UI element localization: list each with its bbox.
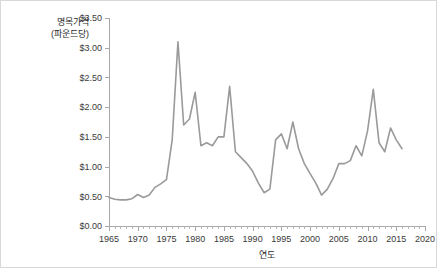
x-tick-label: 1985 [214,234,234,244]
y-tick-label: $1.00 [79,162,102,172]
x-tick-label: 1970 [128,234,148,244]
series-line [109,42,402,200]
x-tick-label: 2010 [358,234,378,244]
x-tick-label: 2020 [415,234,435,244]
y-tick-label: $2.00 [79,102,102,112]
y-axis: $0.00$0.50$1.00$1.50$2.00$2.50$3.00$3.50 [79,13,109,231]
y-tick-label: $0.50 [79,192,102,202]
y-axis-title-line2: (파운드당) [51,29,89,39]
data-series [109,42,402,200]
x-axis-title: 연도 [259,250,275,260]
x-tick-label: 1995 [271,234,291,244]
x-tick-label: 1980 [185,234,205,244]
x-tick-label: 2000 [300,234,320,244]
x-tick-label: 2005 [329,234,349,244]
y-tick-label: $1.50 [79,132,102,142]
x-tick-label: 1965 [99,234,119,244]
line-chart: $0.00$0.50$1.00$1.50$2.00$2.50$3.00$3.50… [1,1,438,269]
y-tick-label: $0.00 [79,221,102,231]
x-tick-label: 1990 [243,234,263,244]
x-axis: 1965197019751980198519901995200020052010… [99,226,435,244]
y-axis-title-line1: 명목가격 [57,16,89,27]
y-tick-label: $2.50 [79,73,102,83]
y-tick-label: $3.00 [79,43,102,53]
x-tick-label: 2015 [386,234,406,244]
chart-figure: $0.00$0.50$1.00$1.50$2.00$2.50$3.00$3.50… [0,0,437,268]
x-tick-label: 1975 [156,234,176,244]
